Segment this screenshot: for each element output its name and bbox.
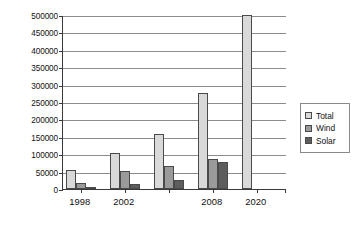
bar-total (242, 15, 252, 189)
bar-group (154, 16, 184, 189)
bar-solar (218, 162, 228, 189)
legend-swatch-wind-icon (305, 125, 312, 132)
legend-label: Wind (316, 123, 335, 133)
y-axis-tick (59, 173, 63, 174)
bar-total (110, 153, 120, 189)
y-axis-tick (59, 51, 63, 52)
x-axis-label: 2002 (113, 196, 134, 207)
bar-wind (120, 171, 130, 189)
legend-item-total[interactable]: Total (305, 111, 346, 121)
legend-label: Total (316, 111, 334, 121)
y-axis-tick (59, 120, 63, 121)
x-axis-label: 1998 (69, 196, 90, 207)
legend-label: Solar (316, 136, 336, 146)
bar-solar (130, 184, 140, 189)
legend-item-wind[interactable]: Wind (305, 123, 346, 133)
bar-group (110, 16, 140, 189)
y-axis-label: 150000 (31, 133, 58, 142)
bar-group (198, 16, 228, 189)
y-axis-tick (59, 138, 63, 139)
y-axis-label: 400000 (31, 46, 58, 55)
plot-area (62, 16, 286, 190)
y-axis-label: 0 (54, 186, 58, 195)
y-axis-label: 250000 (31, 99, 58, 108)
x-axis-tick (169, 189, 170, 193)
y-axis-tick (59, 16, 63, 17)
x-axis-tick (81, 189, 82, 193)
bar-chart: TotalWindSolar 5000004500004000003500003… (0, 0, 354, 231)
x-axis-label: 2008 (201, 196, 222, 207)
y-axis-tick (59, 33, 63, 34)
x-axis-tick (285, 189, 286, 193)
x-axis-tick (125, 189, 126, 193)
y-axis-label: 100000 (31, 151, 58, 160)
bar-solar (174, 180, 184, 189)
chart-legend: TotalWindSolar (300, 103, 350, 153)
bar-total (154, 134, 164, 189)
legend-item-solar[interactable]: Solar (305, 136, 346, 146)
bar-total (66, 170, 76, 189)
x-axis-label: 2020 (245, 196, 266, 207)
bar-wind (164, 166, 174, 189)
bar-wind (208, 159, 218, 189)
y-axis-label: 300000 (31, 81, 58, 90)
bar-group (66, 16, 96, 189)
x-axis-tick (213, 189, 214, 193)
y-axis-tick (59, 86, 63, 87)
y-axis-label: 450000 (31, 29, 58, 38)
y-axis-tick (59, 155, 63, 156)
y-axis-label: 500000 (31, 12, 58, 21)
y-axis-label: 350000 (31, 64, 58, 73)
y-axis-tick (59, 190, 63, 191)
y-axis-label: 50000 (36, 168, 58, 177)
y-axis-tick (59, 68, 63, 69)
legend-swatch-solar-icon (305, 137, 312, 144)
legend-swatch-total-icon (305, 112, 312, 119)
bar-total (198, 93, 208, 189)
bar-group (242, 16, 272, 189)
x-axis-tick (257, 189, 258, 193)
y-axis-tick (59, 103, 63, 104)
bar-solar (86, 187, 96, 189)
y-axis-label: 200000 (31, 116, 58, 125)
